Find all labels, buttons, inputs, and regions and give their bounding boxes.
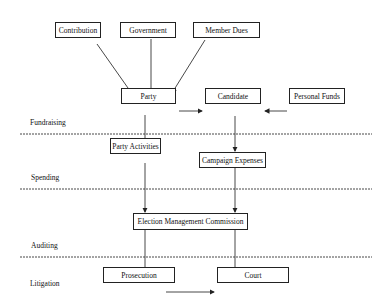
node-label: Party (141, 92, 157, 101)
node-party-activities: Party Activities (110, 138, 161, 154)
node-label: Election Management Commission (138, 217, 244, 226)
node-contribution: Contribution (55, 22, 101, 38)
node-label: Court (244, 271, 261, 280)
node-label: Campaign Expenses (202, 156, 263, 165)
node-party: Party (121, 88, 176, 104)
node-member-dues: Member Dues (193, 22, 260, 38)
node-label: Candidate (218, 92, 248, 101)
node-personal-funds: Personal Funds (289, 88, 345, 104)
node-court: Court (217, 267, 289, 283)
node-label: Contribution (59, 26, 97, 35)
connector-layer (0, 0, 389, 304)
node-campaign-expenses: Campaign Expenses (199, 152, 266, 168)
node-candidate: Candidate (205, 88, 261, 104)
stage-label-auditing: Auditing (31, 241, 58, 250)
node-label: Personal Funds (294, 92, 340, 101)
node-election-management-commission: Election Management Commission (133, 213, 248, 230)
node-label: Member Dues (205, 26, 248, 35)
node-government: Government (120, 22, 176, 38)
node-label: Government (129, 26, 167, 35)
node-prosecution: Prosecution (103, 267, 175, 283)
node-label: Party Activities (112, 142, 158, 151)
stage-label-spending: Spending (31, 173, 59, 182)
stage-label-litigation: Litigation (30, 279, 60, 288)
node-label: Prosecution (121, 271, 156, 280)
stage-label-fundraising: Fundraising (30, 118, 66, 127)
